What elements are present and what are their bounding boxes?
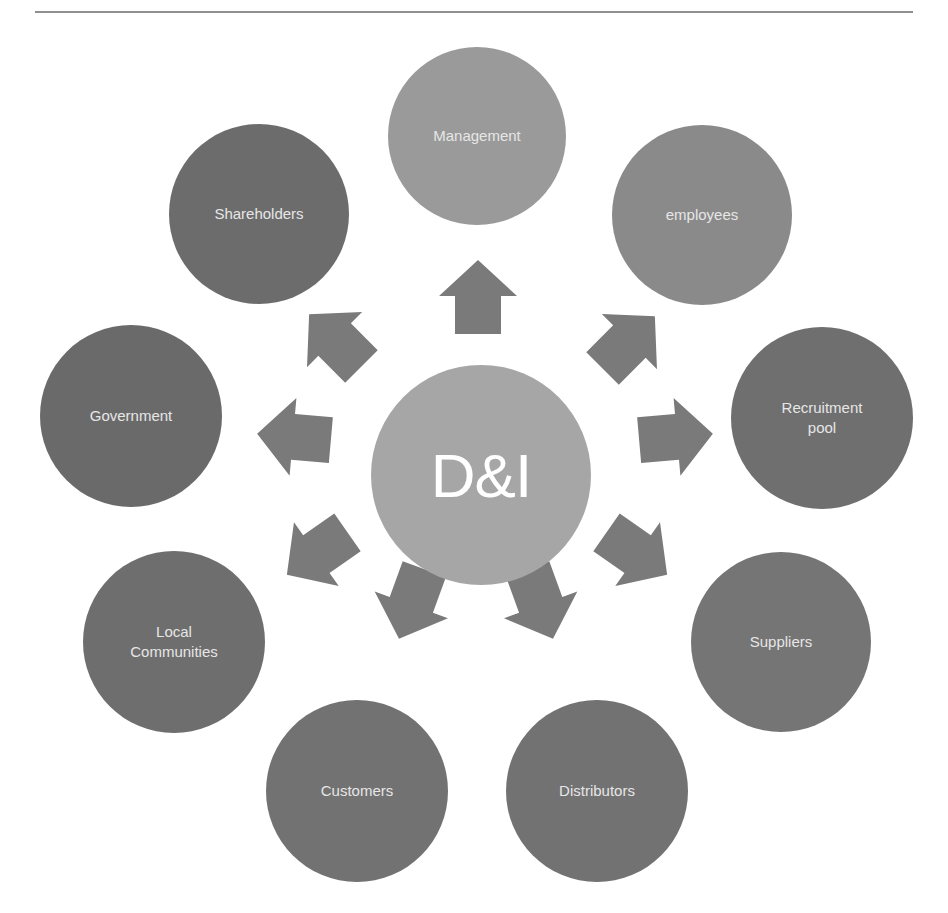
node-shareholders: Shareholders (169, 124, 349, 304)
node-recruitment-pool: Recruitment pool (731, 327, 913, 509)
center-node-di: D&I (371, 365, 591, 585)
node-government: Government (40, 325, 222, 507)
arrow-to-management-icon (439, 260, 517, 334)
node-label: Distributors (547, 781, 647, 801)
arrow-to-government-icon (254, 395, 335, 479)
arrow-to-employees-icon (575, 289, 682, 396)
arrow-to-recruitment-pool-icon (636, 395, 717, 479)
node-label: Customers (309, 781, 406, 801)
node-customers: Customers (266, 700, 448, 882)
node-label: Government (78, 406, 185, 426)
node-distributors: Distributors (506, 700, 688, 882)
arrow-to-suppliers-icon (584, 500, 689, 606)
node-management: Management (388, 47, 566, 225)
node-label: Management (421, 126, 533, 146)
figure-caption (36, 903, 156, 913)
node-employees: employees (612, 125, 792, 305)
node-suppliers: Suppliers (691, 552, 871, 732)
node-label: employees (654, 205, 751, 225)
arrow-to-shareholders-icon (282, 287, 389, 394)
center-label: D&I (431, 440, 531, 511)
node-label: Shareholders (202, 204, 315, 224)
node-label: Suppliers (738, 632, 825, 652)
node-local-communities: Local Communities (83, 551, 265, 733)
node-label: Local Communities (118, 622, 230, 663)
arrow-to-local-communities-icon (265, 500, 370, 606)
node-label: Recruitment pool (770, 398, 875, 439)
